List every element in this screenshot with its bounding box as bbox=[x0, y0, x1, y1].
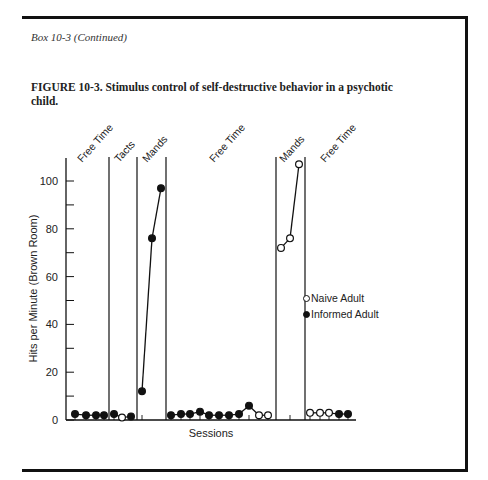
y-tick-label: 20 bbox=[46, 366, 58, 378]
open-circle-marker bbox=[317, 409, 324, 416]
phase-label: Free Time bbox=[318, 121, 359, 164]
open-circle-marker bbox=[307, 409, 314, 416]
filled-circle-marker bbox=[149, 235, 156, 242]
filled-circle-marker bbox=[236, 411, 243, 418]
y-tick-label: 60 bbox=[46, 271, 58, 283]
y-tick-label: 0 bbox=[52, 414, 58, 426]
filled-circle-icon bbox=[303, 311, 310, 318]
phase-label: Mands bbox=[140, 133, 170, 164]
filled-circle-marker bbox=[336, 411, 343, 418]
x-axis-label: Sessions bbox=[189, 427, 234, 439]
phase-lines: Free TimeTactsMandsFree TimeMandsFree Ti… bbox=[75, 121, 359, 420]
filled-circle-marker bbox=[128, 413, 135, 420]
open-circle-marker bbox=[256, 412, 263, 419]
open-circle-marker bbox=[296, 161, 303, 168]
filled-circle-marker bbox=[345, 411, 352, 418]
series-segment bbox=[152, 188, 161, 238]
filled-circle-marker bbox=[216, 412, 223, 419]
filled-circle-marker bbox=[139, 388, 146, 395]
filled-circle-marker bbox=[168, 412, 175, 419]
series-segment bbox=[142, 238, 152, 391]
series-segment bbox=[290, 164, 299, 238]
filled-circle-marker bbox=[206, 412, 213, 419]
filled-circle-marker bbox=[72, 411, 79, 418]
y-tick-label: 80 bbox=[46, 223, 58, 235]
legend-item-naive: Naive Adult bbox=[303, 290, 379, 306]
phase-label: Mands bbox=[277, 133, 307, 164]
filled-circle-marker bbox=[197, 408, 204, 415]
open-circle-marker bbox=[326, 409, 333, 416]
chart: 020406080100Hits per Minute (Brown Room)… bbox=[0, 0, 488, 480]
filled-circle-marker bbox=[178, 411, 185, 418]
filled-circle-marker bbox=[111, 411, 118, 418]
filled-circle-marker bbox=[158, 185, 165, 192]
open-circle-marker bbox=[119, 414, 126, 421]
y-tick-label: 100 bbox=[40, 175, 58, 187]
filled-circle-marker bbox=[187, 411, 194, 418]
legend-item-informed: Informed Adult bbox=[303, 306, 379, 322]
legend: Naive Adult Informed Adult bbox=[303, 290, 379, 322]
open-circle-marker bbox=[278, 245, 285, 252]
filled-circle-marker bbox=[101, 412, 108, 419]
filled-circle-marker bbox=[83, 412, 90, 419]
open-circle-icon bbox=[303, 295, 310, 302]
open-circle-marker bbox=[287, 235, 294, 242]
y-axis-label: Hits per Minute (Brown Room) bbox=[27, 215, 39, 363]
open-circle-marker bbox=[265, 412, 272, 419]
filled-circle-marker bbox=[246, 402, 253, 409]
y-tick-label: 40 bbox=[46, 318, 58, 330]
filled-circle-marker bbox=[93, 412, 100, 419]
phase-label: Tacts bbox=[112, 138, 137, 164]
filled-circle-marker bbox=[226, 412, 233, 419]
phase-label: Free Time bbox=[207, 121, 248, 164]
